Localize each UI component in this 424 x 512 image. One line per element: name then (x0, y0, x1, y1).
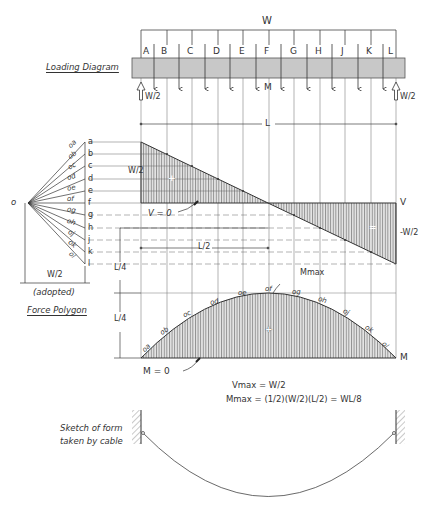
load-letter: F (264, 46, 269, 56)
shear-axis-label: V (400, 197, 406, 207)
vmax-equation: Vmax = W/2 (232, 380, 286, 390)
point-label: j (88, 235, 90, 244)
shear-positive-sign: + (168, 173, 176, 183)
load-letter: C (187, 46, 193, 56)
mmax-equation: Mmax = (1/2)(W/2)(L/2) = WL/8 (226, 394, 362, 404)
ray-label: of (265, 285, 272, 293)
force-polygon (20, 142, 90, 283)
load-letter: D (213, 46, 220, 56)
shear-min-label: -W/2 (400, 228, 418, 237)
quarter-label: L/4 (114, 263, 126, 272)
reaction-label-left: W/2 (145, 92, 161, 101)
moment-positive-sign: + (265, 324, 273, 334)
load-letter: J (341, 46, 344, 56)
point-label: b (88, 149, 93, 158)
moment-zero-label: M = 0 (143, 366, 170, 376)
pole-distance-note: (adopted) (33, 287, 75, 297)
point-label: c (88, 161, 92, 170)
load-letter: B (161, 46, 167, 56)
load-letter: L (388, 46, 393, 56)
ray-label: og (292, 288, 301, 296)
load-letter: K (366, 46, 372, 56)
reaction-label-right: W/2 (400, 92, 416, 101)
ray-label: oe (238, 289, 247, 297)
point-label: k (88, 247, 93, 256)
shear-diagram (88, 142, 396, 264)
span-label: L (265, 118, 270, 128)
shear-negative-sign: = (369, 222, 377, 232)
shear-max-label: W/2 (128, 166, 144, 175)
reaction-arrow-left (137, 82, 145, 100)
load-letter: A (143, 46, 149, 56)
load-letter: E (239, 46, 245, 56)
pole-distance-label: W/2 (47, 270, 63, 279)
ray-label: og (66, 205, 76, 214)
pole-label: o (11, 197, 16, 207)
moment-height-label: L/4 (114, 314, 126, 323)
total-load-label: W (262, 15, 272, 26)
cable-caption-line2: taken by cable (60, 436, 123, 446)
reaction-arrow-right (392, 82, 400, 100)
moment-axis-label: M (400, 352, 408, 362)
point-label: d (88, 174, 93, 183)
point-label: e (88, 186, 93, 195)
ray-label: of (67, 195, 74, 203)
beam (132, 58, 405, 78)
half-span-label: L/2 (198, 242, 210, 251)
point-label: g (88, 210, 93, 219)
point-label: h (88, 223, 93, 232)
force-polygon-title: Force Polygon (27, 305, 87, 315)
cable-sketch (132, 410, 405, 497)
ray-label: oe (66, 183, 76, 192)
point-label: l (88, 259, 90, 268)
load-letter: H (315, 46, 322, 56)
cable-caption-line1: Sketch of form (60, 423, 123, 433)
shear-zero-label: V = 0 (148, 208, 172, 218)
midspan-label: M (264, 82, 272, 92)
point-label: a (88, 137, 93, 146)
point-label: f (88, 198, 91, 207)
moment-max-label: Mmax (300, 268, 324, 277)
loading-diagram-title: Loading Diagram (46, 62, 119, 72)
load-letter: G (290, 46, 297, 56)
